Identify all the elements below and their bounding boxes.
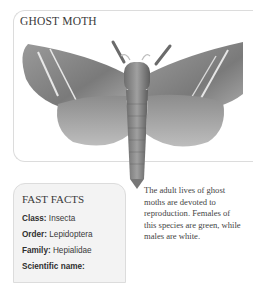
fact-label: Family:	[22, 246, 51, 255]
fact-label: Class:	[22, 214, 47, 223]
fact-label: Scientific name:	[22, 262, 85, 271]
fact-value: Lepidoptera	[49, 230, 92, 239]
fast-facts-title: FAST FACTS	[22, 193, 84, 205]
description-text: The adult lives of ghost moths are devot…	[144, 185, 244, 243]
fact-value: Insecta	[49, 214, 75, 223]
fact-value: Hepialidae	[53, 246, 92, 255]
fast-facts-panel: FAST FACTS Class: Insecta Order: Lepidop…	[13, 183, 126, 283]
fact-scientific-name: Scientific name:	[22, 262, 85, 271]
fact-order: Order: Lepidoptera	[22, 230, 93, 239]
fact-family: Family: Hepialidae	[22, 246, 92, 255]
fact-class: Class: Insecta	[22, 214, 75, 223]
fact-label: Order:	[22, 230, 47, 239]
ghost-moth-illustration	[18, 34, 243, 194]
page-title: GHOST MOTH	[20, 15, 97, 27]
left-leg	[113, 42, 124, 62]
